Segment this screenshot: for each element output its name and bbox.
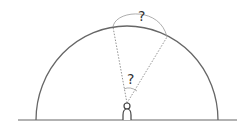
observer-head (124, 103, 130, 109)
sight-line-left (113, 27, 127, 103)
observer-angle-arc (124, 88, 137, 91)
observer-angle-label: ? (127, 71, 134, 87)
sight-line-right (127, 37, 167, 103)
observer-body (123, 109, 131, 120)
top-angle-label: ? (138, 8, 145, 24)
sky-dome-diagram: ? ? (0, 0, 252, 134)
observer-figure (123, 103, 131, 120)
